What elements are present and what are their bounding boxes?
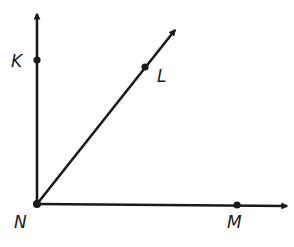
label-k: K [11, 51, 24, 71]
point-vertex-n [33, 200, 41, 208]
point-m [233, 201, 240, 208]
point-k [33, 56, 40, 63]
angle-diagram: KLMN [0, 0, 294, 247]
point-l [141, 63, 148, 70]
ray-nl [37, 30, 175, 204]
label-m: M [227, 212, 242, 232]
ray-nm [37, 204, 287, 206]
label-n: N [14, 212, 27, 232]
label-l: L [157, 66, 166, 86]
